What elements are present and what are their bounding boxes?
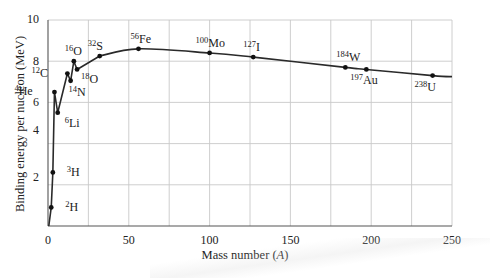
grid-lines	[48, 20, 452, 226]
isotope-label-238u: 238U	[415, 79, 437, 94]
isotope-labels: 2H3H4He6Li12C14N16O18O32S56Fe100Mo127I18…	[14, 31, 436, 215]
x-tick-label: 50	[123, 233, 135, 247]
y-tick-label: 4	[33, 123, 39, 137]
isotope-label-32s: 32S	[88, 38, 103, 53]
x-tick-label: 100	[201, 233, 219, 247]
data-point-100mo	[207, 51, 212, 56]
isotope-label-100mo: 100Mo	[196, 35, 225, 50]
data-point-238u	[430, 73, 435, 78]
isotope-label-184w: 184W	[336, 49, 361, 64]
x-axis-title: Mass number (A)	[202, 248, 289, 262]
data-point-127i	[251, 55, 256, 60]
data-point-184w	[343, 65, 348, 70]
isotope-label-14n: 14N	[69, 84, 87, 99]
data-point-3h	[50, 170, 55, 175]
x-tick-label: 0	[45, 233, 51, 247]
y-tick-label: 10	[27, 12, 39, 26]
data-point-32s	[97, 54, 102, 59]
data-point-56fe	[136, 46, 141, 51]
isotope-label-12c: 12C	[31, 65, 48, 80]
isotope-label-16o: 16O	[65, 43, 83, 58]
x-tick-label: 200	[362, 233, 380, 247]
isotope-label-3h: 3H	[67, 164, 80, 179]
x-tick-label: 150	[281, 233, 299, 247]
data-point-16o	[71, 59, 76, 64]
data-point-197au	[364, 67, 369, 72]
data-point-4he	[52, 90, 57, 95]
x-tick-label: 250	[443, 233, 461, 247]
y-tick-label: 6	[33, 95, 39, 109]
data-point-6li	[55, 110, 60, 115]
data-point-2h	[49, 205, 54, 210]
isotope-label-56fe: 56Fe	[130, 31, 151, 46]
isotope-label-197au: 197Au	[350, 72, 377, 87]
isotope-label-127i: 127I	[243, 39, 260, 54]
data-point-18o	[75, 67, 80, 72]
y-tick-label: 2	[33, 170, 39, 184]
isotope-label-6li: 6Li	[65, 115, 81, 130]
y-axis-title: Binding energy per nucleon (MeV)	[13, 36, 27, 212]
data-point-14n	[68, 78, 73, 83]
isotope-label-2h: 2H	[65, 199, 78, 214]
data-point-12c	[65, 71, 70, 76]
